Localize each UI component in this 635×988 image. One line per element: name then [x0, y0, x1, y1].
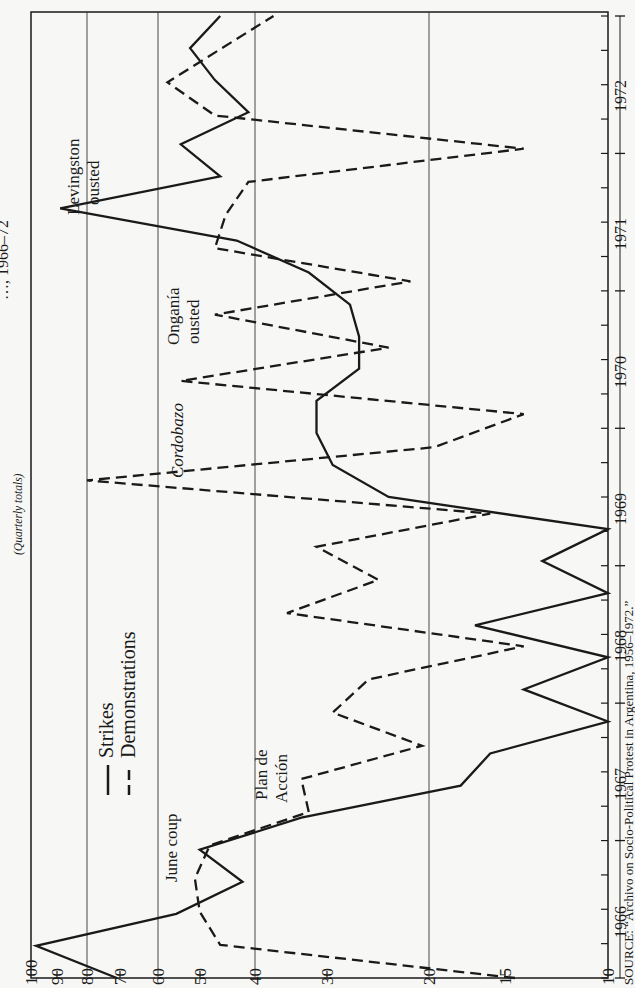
annotation-ongania-2: ousted	[184, 299, 203, 344]
svg-text:30: 30	[318, 968, 337, 985]
svg-text:100: 100	[22, 960, 41, 986]
protest-chart: 100 90 80 70 60 50 40 30 20 15 10 1966 1…	[0, 0, 635, 988]
source-note: SOURCE: “Archivo on Socio-Political Prot…	[621, 600, 635, 985]
svg-text:70: 70	[111, 968, 130, 985]
year-label-1970: 1970	[612, 356, 629, 388]
annotation-plan-de-accion-2: Acción	[272, 753, 291, 803]
chart-subtitle: (Quarterly totals)	[12, 473, 25, 555]
strikes-series-line	[36, 16, 608, 978]
annotation-june-coup: June coup	[162, 814, 181, 882]
annotation-levingston-2: ousted	[84, 160, 103, 205]
annotation-plan-de-accion-1: Plan de	[252, 749, 271, 800]
year-label-1972: 1972	[612, 80, 629, 112]
svg-text:60: 60	[149, 968, 168, 985]
year-label-1969: 1969	[612, 493, 629, 525]
legend: Strikes Demonstrations	[95, 631, 139, 795]
annotation-ongania-1: Onganía	[164, 287, 183, 345]
time-axis-ticks	[601, 16, 608, 978]
svg-text:90: 90	[48, 968, 67, 985]
chart-title-fragment: …, 1966–72	[0, 220, 11, 300]
svg-text:50: 50	[191, 968, 210, 985]
legend-demos-label: Demonstrations	[117, 631, 139, 758]
svg-text:20: 20	[420, 968, 439, 985]
svg-text:10: 10	[599, 968, 618, 985]
plot-frame	[31, 12, 608, 978]
legend-strikes-label: Strikes	[95, 702, 117, 758]
svg-text:15: 15	[496, 968, 515, 985]
demonstrations-series-line	[87, 16, 524, 978]
value-axis-labels: 100 90 80 70 60 50 40 30 20 15 10	[22, 960, 618, 986]
annotation-cordobazo: Cordobazo	[168, 403, 187, 478]
svg-text:80: 80	[78, 968, 97, 985]
annotation-levingston-1: Levingston	[64, 138, 83, 215]
svg-text:40: 40	[246, 968, 265, 985]
year-label-1971: 1971	[612, 218, 629, 250]
